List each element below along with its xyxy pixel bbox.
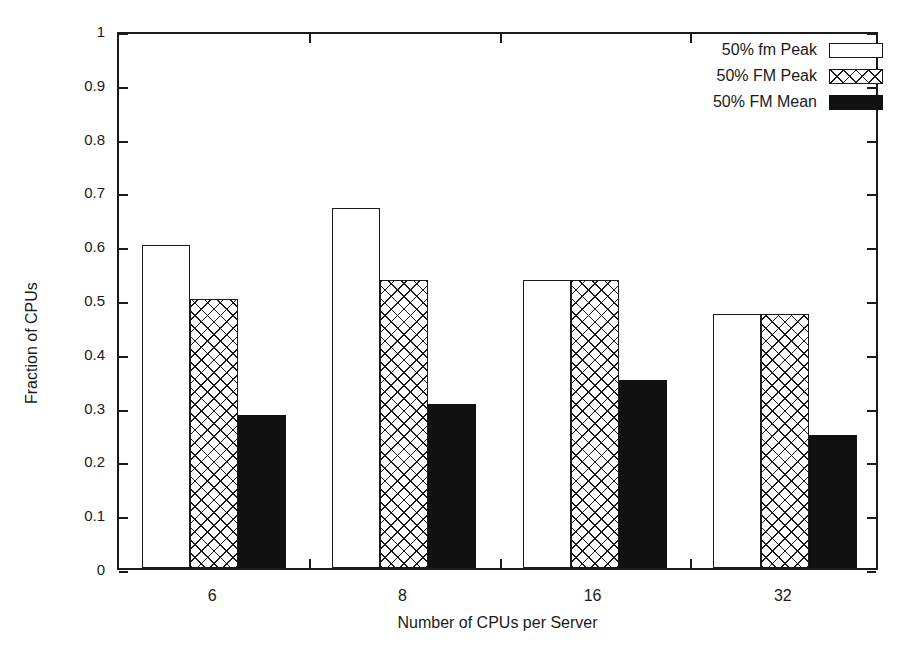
y-tick-mark xyxy=(867,410,876,412)
y-tick-mark xyxy=(119,463,128,465)
x-tick-mark xyxy=(690,34,692,43)
x-tick-mark xyxy=(500,34,502,43)
bar xyxy=(332,208,380,568)
bar-chart-figure: 00.10.20.30.40.50.60.70.80.91681632 Frac… xyxy=(0,0,905,653)
y-tick-label: 0.4 xyxy=(84,347,105,362)
y-tick-mark xyxy=(119,248,128,250)
x-tick-mark xyxy=(309,34,311,43)
x-tick-label: 16 xyxy=(498,588,688,604)
y-tick-label: 1 xyxy=(97,24,105,39)
legend-swatch-icon xyxy=(829,69,883,84)
bar xyxy=(142,245,190,568)
legend-item: 50% fm Peak xyxy=(713,38,883,62)
legend-label: 50% fm Peak xyxy=(722,42,817,58)
legend-item: 50% FM Peak xyxy=(713,64,883,88)
bar xyxy=(428,404,476,568)
y-tick-mark xyxy=(119,302,128,304)
y-tick-mark xyxy=(867,248,876,250)
y-tick-mark xyxy=(867,463,876,465)
y-tick-mark xyxy=(867,571,876,573)
y-axis-label: Fraction of CPUs xyxy=(23,282,41,404)
bar xyxy=(713,314,761,568)
bar xyxy=(380,280,428,568)
y-tick-mark xyxy=(867,194,876,196)
bar xyxy=(761,314,809,568)
legend-label: 50% FM Peak xyxy=(717,68,817,84)
y-tick-mark xyxy=(119,517,128,519)
x-tick-mark xyxy=(309,559,311,568)
y-tick-label: 0.2 xyxy=(84,454,105,469)
bars-layer xyxy=(119,34,876,568)
y-tick-label: 0.5 xyxy=(84,293,105,308)
x-tick-mark xyxy=(690,559,692,568)
legend-item: 50% FM Mean xyxy=(713,90,883,114)
x-tick-label: 6 xyxy=(117,588,307,604)
y-tick-mark xyxy=(119,356,128,358)
chart-legend: 50% fm Peak50% FM Peak50% FM Mean xyxy=(713,38,883,114)
y-tick-mark xyxy=(119,141,128,143)
bar xyxy=(571,280,619,568)
legend-swatch-icon xyxy=(829,95,883,110)
bar xyxy=(619,380,667,568)
y-tick-label: 0 xyxy=(97,562,105,577)
y-tick-label: 0.6 xyxy=(84,239,105,254)
y-tick-label: 0.1 xyxy=(84,508,105,523)
y-tick-label: 0.7 xyxy=(84,185,105,200)
y-tick-label: 0.9 xyxy=(84,78,105,93)
bar xyxy=(238,415,286,568)
y-tick-mark xyxy=(119,33,128,35)
y-tick-mark xyxy=(867,33,876,35)
x-tick-label: 32 xyxy=(688,588,878,604)
legend-swatch-icon xyxy=(829,43,883,58)
bar xyxy=(523,280,571,568)
y-tick-mark xyxy=(119,194,128,196)
bar xyxy=(190,299,238,568)
x-axis-label: Number of CPUs per Server xyxy=(117,614,878,632)
y-tick-mark xyxy=(867,302,876,304)
y-tick-label: 0.3 xyxy=(84,401,105,416)
y-tick-mark xyxy=(119,410,128,412)
y-tick-mark xyxy=(119,571,128,573)
y-tick-mark xyxy=(867,356,876,358)
y-tick-label: 0.8 xyxy=(84,132,105,147)
legend-label: 50% FM Mean xyxy=(713,94,817,110)
x-tick-mark xyxy=(500,559,502,568)
y-tick-mark xyxy=(867,141,876,143)
y-tick-mark xyxy=(867,517,876,519)
y-tick-mark xyxy=(119,87,128,89)
x-tick-label: 8 xyxy=(307,588,497,604)
bar xyxy=(809,435,857,568)
